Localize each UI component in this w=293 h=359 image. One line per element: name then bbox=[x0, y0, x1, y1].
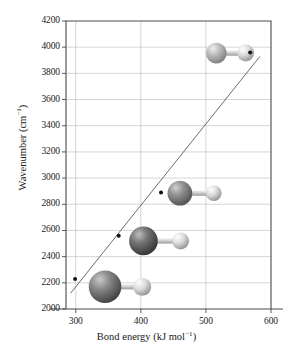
trend-line bbox=[71, 56, 260, 293]
gridlines bbox=[66, 21, 271, 309]
y-tick-label: 3200 bbox=[26, 146, 60, 156]
y-tick-label: 3400 bbox=[26, 120, 60, 130]
x-tick-label: 300 bbox=[59, 316, 93, 326]
axis-ticks bbox=[62, 21, 271, 313]
x-tick-label: 600 bbox=[254, 316, 288, 326]
y-tick-label: 2000 bbox=[26, 303, 60, 313]
y-tick-label: 4000 bbox=[26, 41, 60, 51]
y-tick-label: 3000 bbox=[26, 172, 60, 182]
chart-figure: 2000220024002600280030003200340036003800… bbox=[0, 0, 293, 359]
y-tick-label: 3800 bbox=[26, 67, 60, 77]
y-tick-label: 4200 bbox=[26, 15, 60, 25]
data-point-markers bbox=[73, 50, 252, 280]
axes-frame bbox=[50, 21, 283, 309]
y-tick-label: 3600 bbox=[26, 94, 60, 104]
y-tick-label: 2800 bbox=[26, 198, 60, 208]
x-tick-label: 400 bbox=[124, 316, 158, 326]
y-tick-label: 2600 bbox=[26, 224, 60, 234]
y-tick-label: 2200 bbox=[26, 277, 60, 287]
x-axis-title: Bond energy (kJ mol−1) bbox=[0, 331, 293, 342]
y-axis-title: Wavenumber (cm−1) bbox=[17, 78, 28, 218]
x-tick-label: 500 bbox=[189, 316, 223, 326]
molecule-glyphs bbox=[89, 43, 254, 303]
y-tick-label: 2400 bbox=[26, 251, 60, 261]
